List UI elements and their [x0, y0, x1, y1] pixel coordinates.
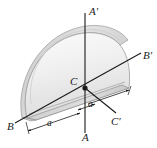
axis-label-C-prime: C′ [111, 116, 121, 127]
axis-label-A: A [82, 132, 89, 143]
axis-label-B: B [7, 121, 14, 132]
axis-label-B-prime: B′ [143, 50, 152, 61]
axis-label-A-prime: A′ [89, 6, 98, 17]
plate-front-face [25, 33, 129, 120]
centroid-label-C: C [70, 76, 77, 87]
dimension-label-a-long: a [47, 119, 52, 129]
dim-ext-left [26, 122, 29, 134]
dimension-label-a-short: a [88, 100, 93, 110]
figure-semicircular-plate: A′ A B′ B C C′ a a [0, 0, 157, 148]
semicircular-plate-body [21, 25, 130, 121]
centroid-marker-dot [82, 85, 87, 90]
diagram-canvas [0, 0, 157, 148]
